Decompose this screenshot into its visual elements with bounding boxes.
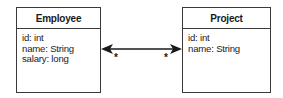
target-multiplicity: * — [164, 53, 168, 63]
source-multiplicity: * — [114, 53, 118, 63]
association-line — [0, 0, 283, 98]
